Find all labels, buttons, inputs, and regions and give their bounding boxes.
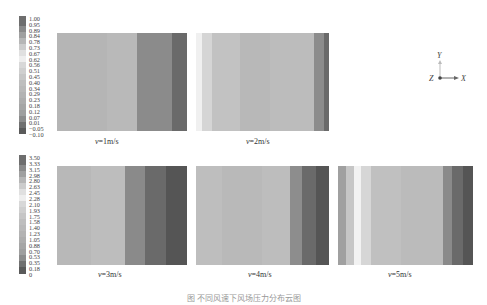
tick: −0.10	[29, 132, 44, 138]
figure-caption: 图 不同风速下风场压力分布云图	[0, 292, 487, 303]
contour-panel-v5	[338, 166, 473, 265]
label-value: =2m/s	[250, 137, 270, 146]
colorbar-bottom	[19, 155, 26, 272]
colorbar-top	[19, 16, 26, 132]
contour-panel-v2	[196, 33, 329, 131]
contour-panel-v3	[57, 166, 187, 265]
svg-text:Z: Z	[429, 74, 434, 83]
panel-label-v3: v=3m/s	[98, 270, 122, 279]
svg-text:Y: Y	[437, 51, 443, 60]
contour-panel-v4	[196, 166, 329, 265]
label-value: =4m/s	[252, 270, 272, 279]
label-value: =1m/s	[99, 137, 119, 146]
svg-text:X: X	[460, 74, 467, 83]
label-value: =5m/s	[392, 270, 412, 279]
axes-triad-icon: Y Z X	[428, 48, 478, 88]
label-value: =3m/s	[102, 270, 122, 279]
contour-panel-v1	[57, 33, 187, 131]
panel-label-v2: v=2m/s	[246, 137, 270, 146]
panel-label-v5: v=5m/s	[388, 270, 412, 279]
panel-label-v4: v=4m/s	[248, 270, 272, 279]
panel-label-v1: v=1m/s	[95, 137, 119, 146]
tick: 0	[29, 272, 32, 278]
